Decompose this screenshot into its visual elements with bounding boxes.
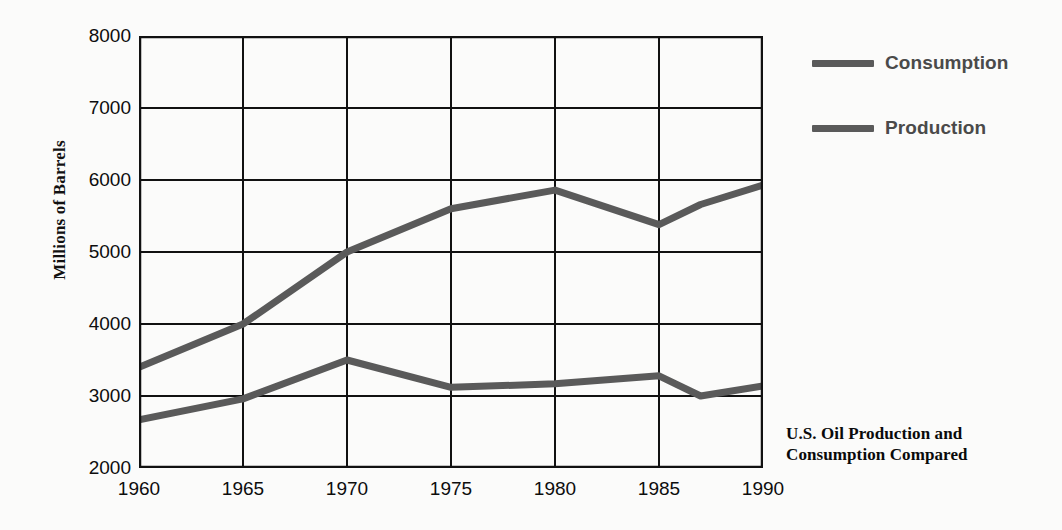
legend-label-production: Production bbox=[885, 117, 986, 139]
chart-caption: U.S. Oil Production and Consumption Comp… bbox=[786, 424, 1048, 465]
y-tick-label: 8000 bbox=[61, 26, 131, 45]
legend-item-consumption: Consumption bbox=[812, 50, 1052, 76]
plot-area bbox=[139, 36, 763, 468]
y-tick-label: 5000 bbox=[61, 242, 131, 261]
legend-label-consumption: Consumption bbox=[885, 52, 1009, 74]
y-tick-label: 6000 bbox=[61, 170, 131, 189]
line-chart-svg bbox=[139, 36, 763, 468]
x-tick-label: 1960 bbox=[94, 479, 184, 498]
x-tick-label: 1965 bbox=[198, 479, 288, 498]
caption-line-1: U.S. Oil Production and bbox=[786, 424, 1048, 445]
y-tick-label: 4000 bbox=[61, 314, 131, 333]
x-tick-label: 1990 bbox=[718, 479, 808, 498]
legend-swatch-consumption bbox=[812, 60, 874, 67]
y-axis-tick-labels: 8000700060005000400030002000 bbox=[55, 0, 131, 530]
y-tick-label: 2000 bbox=[61, 458, 131, 477]
chart-figure: Millions of Barrels 80007000600050004000… bbox=[0, 0, 1062, 530]
x-tick-label: 1970 bbox=[302, 479, 392, 498]
x-axis-tick-labels: 1960196519701975198019851990 bbox=[0, 479, 1062, 509]
legend-swatch-production bbox=[812, 125, 874, 132]
chart-legend: Consumption Production bbox=[812, 50, 1052, 180]
caption-line-2: Consumption Compared bbox=[786, 445, 1048, 466]
x-tick-label: 1985 bbox=[614, 479, 704, 498]
y-tick-label: 3000 bbox=[61, 386, 131, 405]
x-tick-label: 1975 bbox=[406, 479, 496, 498]
x-tick-label: 1980 bbox=[510, 479, 600, 498]
legend-item-production: Production bbox=[812, 115, 1052, 141]
y-tick-label: 7000 bbox=[61, 98, 131, 117]
